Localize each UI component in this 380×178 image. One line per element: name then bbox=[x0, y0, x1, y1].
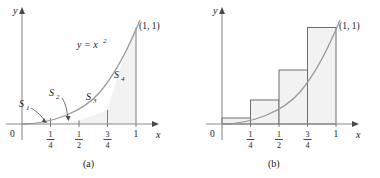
frac-denominator: 4 bbox=[306, 141, 310, 150]
strip-label-s3-subscript: 3 bbox=[92, 97, 97, 105]
frac-denominator: 2 bbox=[277, 141, 281, 150]
y-axis-label-b: y bbox=[212, 5, 218, 16]
strip-label-s1-subscript: 1 bbox=[26, 104, 30, 112]
origin-label-b: 0 bbox=[210, 129, 215, 139]
curve-equation-text: y = x bbox=[76, 39, 98, 50]
strip-s3-region bbox=[79, 110, 108, 124]
panel-b: y x 0 1 4 1 2 3 4 1 (1, 1) bbox=[206, 5, 361, 150]
frac-numerator: 3 bbox=[106, 130, 110, 139]
riemann-sum-figure: y x 0 1 4 1 2 3 4 1 y = x 2 bbox=[0, 0, 380, 178]
xtick-label-quarter-b: 1 4 bbox=[247, 130, 255, 150]
xtick-label-one-b: 1 bbox=[334, 129, 339, 139]
xtick-label-three-quarter-a: 3 4 bbox=[104, 130, 112, 150]
strip-label-s2-subscript: 2 bbox=[56, 93, 60, 101]
strip-label-s2: S 2 bbox=[49, 87, 71, 121]
frac-numerator: 1 bbox=[277, 130, 281, 139]
curve-equation-label-a: y = x 2 bbox=[76, 37, 107, 50]
curve-equation-exponent: 2 bbox=[103, 37, 107, 45]
point-label-b: (1, 1) bbox=[339, 21, 360, 32]
x-axis-label-b: x bbox=[355, 129, 361, 140]
panel-a: y x 0 1 4 1 2 3 4 1 y = x 2 bbox=[6, 5, 161, 150]
xtick-label-three-quarter-b: 3 4 bbox=[304, 130, 312, 150]
strip-label-s4-subscript: 4 bbox=[121, 75, 125, 83]
xtick-label-one-a: 1 bbox=[134, 129, 139, 139]
panel-a-caption: (a) bbox=[83, 158, 94, 169]
frac-numerator: 3 bbox=[306, 130, 310, 139]
strip-label-s3-text: S bbox=[86, 91, 91, 102]
frac-denominator: 4 bbox=[249, 141, 253, 150]
strip-label-s2-text: S bbox=[49, 87, 54, 98]
strip-label-s4-text: S bbox=[114, 69, 119, 80]
frac-numerator: 1 bbox=[249, 130, 253, 139]
frac-denominator: 4 bbox=[49, 141, 53, 150]
strip-label-s1: S 1 bbox=[19, 98, 47, 123]
frac-numerator: 1 bbox=[49, 130, 53, 139]
x-axis-arrowhead-b bbox=[352, 121, 359, 127]
point-label-a: (1, 1) bbox=[139, 21, 160, 32]
origin-label-a: 0 bbox=[10, 129, 15, 139]
frac-numerator: 1 bbox=[77, 130, 81, 139]
frac-denominator: 2 bbox=[77, 141, 81, 150]
xtick-label-half-b: 1 2 bbox=[275, 130, 283, 150]
y-axis-label-a: y bbox=[12, 5, 18, 16]
bar-interval-3 bbox=[279, 70, 308, 124]
x-axis-label-a: x bbox=[155, 129, 161, 140]
y-axis-arrowhead-b bbox=[219, 7, 225, 14]
xtick-label-quarter-a: 1 4 bbox=[47, 130, 55, 150]
y-axis-arrowhead-a bbox=[19, 7, 25, 14]
panel-b-caption: (b) bbox=[268, 158, 280, 169]
x-axis-arrowhead-a bbox=[152, 121, 159, 127]
strip-label-s1-text: S bbox=[19, 98, 24, 109]
xtick-label-half-a: 1 2 bbox=[75, 130, 83, 150]
frac-denominator: 4 bbox=[106, 141, 110, 150]
